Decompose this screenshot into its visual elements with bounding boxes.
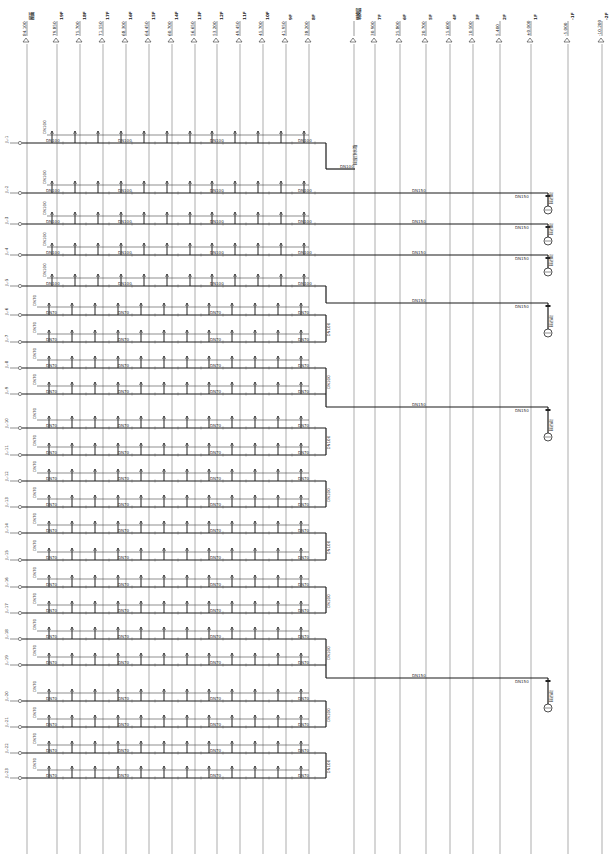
fixture-label: 接市政 [548,192,554,204]
elevation-value: ±0.000 [526,20,531,36]
pipe-size-label: DN70 [118,773,130,778]
valve-label: DN150 [515,679,529,684]
riser-pipe-label: DN100 [42,170,47,184]
riser-row: JL-13DN70DN70DN70DN70DN70 [4,486,326,508]
riser-tag: JL-16 [4,577,9,588]
elevation-triangle-icon [99,38,105,42]
riser-row: JL-14DN70DN70DN70DN70DN70 [4,512,326,534]
pipe-size-label: DN70 [298,476,310,481]
riser-row: JL-17DN70DN70DN70DN70DN70 [4,592,326,614]
floor-name: 转换层 [355,7,362,20]
elevation-value: 56.650 [190,21,195,36]
riser-node-icon [18,776,21,779]
elevation-value: 75.700 [75,21,80,36]
pipe-size-label: DN70 [298,310,310,315]
pipe-size-label: DN100 [210,250,224,255]
elevation-marker: 68.30016F [121,11,134,42]
riser-node-icon [18,505,21,508]
valve-label: DN150 [515,408,529,413]
riser-row: JL-3DN100DN100DN100DN100DN100 [4,201,326,226]
pipe-size-label: DN70 [46,660,58,665]
pipe-size-label: DN70 [298,722,310,727]
riser-row: JL-20DN70DN70DN70DN70DN70 [4,680,326,702]
elevation-marker: -5.000-1F [563,12,576,42]
valve-label: DN150 [515,304,529,309]
riser-pipe-label: DN70 [32,373,37,385]
floor-name: 14F [174,11,179,20]
connector-size-label: DN100 [326,646,331,660]
pipe-size-label: DN70 [298,608,310,613]
riser-pipe-label: DN70 [32,644,37,656]
elevation-triangle-icon [23,38,29,42]
riser-row: JL-4DN100DN100DN100DN100DN100 [4,232,326,257]
riser-row: JL-15DN70DN70DN70DN70DN70 [4,539,326,561]
riser-pipe-label: DN70 [32,347,37,359]
riser-tag: JL-4 [4,247,9,256]
elevation-triangle-icon [282,38,288,42]
fixture-label: 接市政 [548,223,554,235]
pipe-size-label: DN70 [118,528,130,533]
riser-tag: JL-20 [4,691,9,702]
pipe-size-label: DN70 [210,363,222,368]
connector-size-label: DN100 [326,540,331,554]
elevation-marker: 45.70010F [258,11,271,42]
pipe-size-label: DN70 [298,748,310,753]
riser-row: JL-9DN70DN70DN70DN70DN70 [4,373,326,395]
pipe-size-label: DN100 [118,188,132,193]
elevation-triangle-icon [259,38,265,42]
connector-size-label: DN100 [326,435,331,449]
pipe-size-label: DN70 [298,337,310,342]
elevation-value: 71.550 [98,21,103,36]
pipe-size-label: DN100 [46,188,60,193]
pipe-size-label: DN100 [118,281,132,286]
riser-node-icon [18,284,21,287]
pipe-size-label: DN70 [118,310,130,315]
elevation-marker: 25.8006F [395,14,408,42]
main-pipe-size: DN150 [412,219,426,224]
pipe-size-label: DN70 [298,363,310,368]
pipe-size-label: DN70 [298,528,310,533]
pipe-size-label: DN70 [118,696,130,701]
floor-name: 7F [377,14,382,20]
elevation-triangle-icon [350,38,356,42]
pipe-size-label: DN70 [118,389,130,394]
riser-node-icon [18,141,21,144]
elevation-triangle-icon [76,38,82,42]
pipe-size-label: DN100 [298,281,312,286]
elevation-triangle-icon [371,38,377,42]
elevation-marker: ±0.0001F [526,14,539,42]
pipe-size-label: DN70 [298,450,310,455]
riser-pipe-label: DN100 [42,263,47,277]
elevation-triangle-icon [191,38,197,42]
riser-tag: JL-2 [4,185,9,194]
pipe-size-label: DN70 [210,608,222,613]
elevation-labels: 84.100屋面79.85019F75.70018F71.55017F68.30… [22,7,610,42]
riser-row: JL-6DN70DN70DN70DN70DN70 [4,294,326,316]
riser-row: JL-2DN100DN100DN100DN100DN100 [4,170,326,195]
main-pipe-size: DN150 [412,188,426,193]
pipe-size-label: DN100 [46,219,60,224]
pipe-size-label: DN70 [298,502,310,507]
riser-row: JL-11DN70DN70DN70DN70DN70 [4,434,326,456]
pipe-size-label: DN70 [118,476,130,481]
elevation-marker: 38.2008F [304,14,317,42]
elevation-triangle-icon [469,38,475,42]
pipe-size-label: DN70 [210,476,222,481]
floor-name: 18F [82,11,87,20]
riser-node-icon [18,751,21,754]
pipe-size-label: DN70 [210,773,222,778]
pipe-size-label: DN70 [210,502,222,507]
riser-node-icon [18,392,21,395]
pipe-size-label: DN70 [118,363,130,368]
pipe-size-label: DN70 [298,423,310,428]
elevation-value: -10.200 [597,20,602,36]
pipe-size-label: DN70 [118,748,130,753]
pipe-size-label: DN70 [210,634,222,639]
riser-tag: JL-13 [4,497,9,508]
elevation-value: 30.900 [370,21,375,36]
floor-name: 10F [265,11,270,20]
pipe-size-label: DN70 [46,555,58,560]
riser-pipe-label: DN70 [32,732,37,744]
elevation-value: 20.700 [421,21,426,36]
fixture-label: 接市政 [548,315,554,327]
